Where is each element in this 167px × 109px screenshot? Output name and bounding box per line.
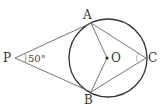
label-c: C: [148, 51, 157, 65]
angle-arc-p: [25, 54, 26, 63]
label-p: P: [3, 51, 11, 65]
label-a: A: [82, 8, 92, 22]
angle-label-p: 50°: [28, 53, 46, 64]
label-b: B: [84, 93, 93, 107]
angle-arc-c: [136, 53, 138, 63]
tangent-pa: [15, 23, 91, 58]
tangent-pb: [15, 58, 91, 92]
center-dot-o: [106, 57, 109, 60]
label-o: O: [111, 51, 121, 65]
geometry-diagram: P A B C O 50°: [0, 0, 167, 109]
